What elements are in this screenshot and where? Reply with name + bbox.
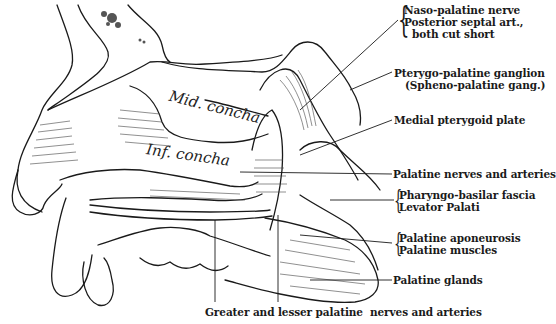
inf-concha-outline: [60, 169, 258, 186]
leader-naso-palatine: [300, 20, 398, 110]
leader-palatine-nerves: [240, 172, 392, 174]
label-palatine-nerves-arteries: Palatine nerves and arteries: [393, 168, 556, 180]
label-naso-palatine-nerve: Naso-palatine nerve: [404, 4, 520, 16]
label-posterior-septal-art: Posterior septal art.,: [404, 16, 523, 28]
label-medial-pterygoid-plate: Medial pterygoid plate: [394, 114, 525, 126]
hard-palate-outline: [90, 205, 270, 212]
label-palatine-glands: Palatine glands: [393, 274, 483, 286]
label-pterygo-palatine-ganglion: Pterygo-palatine ganglion: [394, 67, 545, 79]
leader-pterygo-palatine: [350, 72, 392, 90]
leader-medial-pterygoid: [300, 120, 392, 155]
label-levator-palati: Levator Palati: [399, 201, 480, 213]
label-palatine-muscles: Palatine muscles: [399, 244, 497, 256]
label-pharyngo-basilar-fascia: Pharyngo-basilar fascia: [399, 189, 535, 201]
label-palatine-aponeurosis: Palatine aponeurosis: [399, 232, 520, 244]
pterygoid-outline: [260, 69, 358, 180]
leader-palatine-aponeurosis: [300, 235, 392, 243]
label-spheno-palatine-gang: (Spheno-palatine gang.): [405, 79, 545, 91]
nasal-bone-outline: [17, 5, 73, 212]
label-both-cut-short: both cut short: [412, 28, 495, 40]
caption-greater-lesser-palatine: Greater and lesser palatine nerves and a…: [205, 306, 482, 318]
